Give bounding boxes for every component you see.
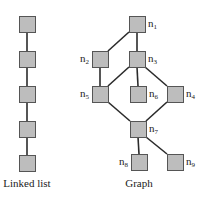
graph-node-n2 [93,52,109,68]
graph-node-label-n7: n7 [149,122,159,136]
graph-node-n1 [130,17,146,33]
graph-node-label-n2: n2 [80,52,90,66]
linked-list-caption: Linked list [3,177,50,189]
graph-node-label-n4: n4 [186,87,196,101]
graph-node-n9 [168,155,184,171]
graph-node-label-n1: n1 [148,17,158,31]
graph-caption: Graph [125,177,153,189]
linked-list-node [20,122,36,138]
graph-node-n6 [131,87,147,103]
linked-list-node [20,17,36,33]
graph-edge-n1-n2 [108,32,129,51]
graph-node-label-n3: n3 [148,52,158,66]
graph-edge-n3-n4 [145,67,167,86]
linked-list-node [20,52,36,68]
graph-edge-n7-n8 [138,137,139,154]
graph-edge-n4-n7 [146,102,167,121]
graph-node-label-n6: n6 [149,87,159,101]
graph-node-n7 [131,122,147,138]
linked-list-node [20,156,36,172]
graph-node-label-n5: n5 [80,87,90,101]
graph-edge-n7-n9 [146,137,167,154]
graph-node-n3 [130,52,146,68]
graph-node-n4 [168,87,184,103]
graph-node-n8 [132,155,148,171]
data-structures-diagram: n1n2n3n4n5n6n7n8n9 Linked list Graph [0,0,202,204]
graph-node-label-n8: n8 [119,155,129,169]
graph-node-label-n9: n9 [186,155,196,169]
graph-edge-n3-n6 [137,67,138,86]
graph-edge-n3-n5 [108,67,129,86]
graph-node-n5 [93,87,109,103]
graph-edge-n5-n7 [108,102,130,121]
linked-list-node [20,87,36,103]
